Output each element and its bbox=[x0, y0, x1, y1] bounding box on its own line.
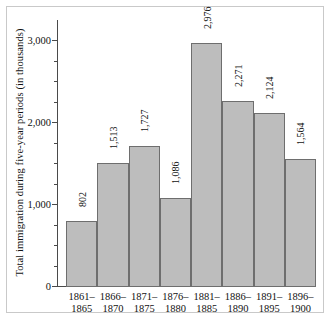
y-tick-label: 0 bbox=[46, 281, 51, 292]
x-axis-label-line: 1895 bbox=[254, 303, 285, 315]
y-tick-minor bbox=[54, 266, 58, 267]
x-axis-labels: 1861–18651866–18701871–18751876–18801881… bbox=[66, 291, 316, 321]
x-axis-label-line: 1890 bbox=[222, 303, 253, 315]
y-tick-minor bbox=[54, 184, 58, 185]
y-tick-label: 1,000 bbox=[27, 199, 51, 210]
y-tick-minor bbox=[54, 163, 58, 164]
x-axis-label: 1876–1880 bbox=[160, 291, 191, 315]
x-axis-label: 1896–1900 bbox=[285, 291, 316, 315]
bar[interactable] bbox=[66, 221, 97, 287]
x-axis-label-line: 1885 bbox=[191, 303, 222, 315]
x-axis-label-line: 1876– bbox=[160, 291, 191, 303]
bar-slot: 2,271 bbox=[222, 20, 253, 287]
x-axis-label: 1891–1895 bbox=[254, 291, 285, 315]
bar-value-label: 1,727 bbox=[139, 109, 150, 132]
bar[interactable] bbox=[191, 43, 222, 287]
y-tick-minor bbox=[54, 143, 58, 144]
y-tick-major bbox=[52, 122, 58, 123]
bar-slot: 1,513 bbox=[97, 20, 128, 287]
x-axis-label: 1861–1865 bbox=[66, 291, 97, 315]
bar-slot: 802 bbox=[66, 20, 97, 287]
x-axis-label-line: 1891– bbox=[254, 291, 285, 303]
bar-slot: 1,086 bbox=[160, 20, 191, 287]
x-axis-label-line: 1900 bbox=[285, 303, 316, 315]
x-axis-label: 1871–1875 bbox=[129, 291, 160, 315]
x-axis-label: 1886–1890 bbox=[222, 291, 253, 315]
bar-slot: 2,124 bbox=[254, 20, 285, 287]
y-tick-label: 3,000 bbox=[27, 35, 51, 46]
bar-value-label: 2,976 bbox=[201, 7, 212, 30]
x-axis-label-line: 1866– bbox=[97, 291, 128, 303]
bar-value-label: 2,271 bbox=[232, 65, 243, 88]
x-axis-label-line: 1861– bbox=[66, 291, 97, 303]
bar[interactable] bbox=[129, 146, 160, 287]
bar-slot: 1,727 bbox=[129, 20, 160, 287]
bar-value-label: 1,564 bbox=[295, 123, 306, 146]
x-axis-label-line: 1871– bbox=[129, 291, 160, 303]
x-axis-label-line: 1880 bbox=[160, 303, 191, 315]
y-tick-major bbox=[52, 204, 58, 205]
bar[interactable] bbox=[222, 101, 253, 287]
bar[interactable] bbox=[254, 113, 285, 287]
x-axis-label-line: 1875 bbox=[129, 303, 160, 315]
y-tick-major bbox=[52, 286, 58, 287]
bar-slot: 2,976 bbox=[191, 20, 222, 287]
y-tick-minor bbox=[54, 61, 58, 62]
bar-value-label: 1,086 bbox=[170, 162, 181, 185]
x-axis-label-line: 1896– bbox=[285, 291, 316, 303]
bar-value-label: 2,124 bbox=[264, 77, 275, 100]
plot-area: 01,0002,0003,000 8021,5131,7271,0862,976… bbox=[57, 20, 316, 287]
y-tick-minor bbox=[54, 102, 58, 103]
bar-value-label: 1,513 bbox=[107, 127, 118, 150]
x-axis-label: 1866–1870 bbox=[97, 291, 128, 315]
y-axis-title: Total immigration during five-year perio… bbox=[14, 28, 25, 278]
x-axis-label-line: 1870 bbox=[97, 303, 128, 315]
y-tick-minor bbox=[54, 81, 58, 82]
bar-value-label: 802 bbox=[76, 192, 87, 207]
x-axis-label-line: 1865 bbox=[66, 303, 97, 315]
x-axis-label-line: 1881– bbox=[191, 291, 222, 303]
y-tick-label: 2,000 bbox=[27, 117, 51, 128]
bar[interactable] bbox=[97, 163, 128, 287]
y-tick-minor bbox=[54, 40, 58, 41]
x-axis-label-line: 1886– bbox=[222, 291, 253, 303]
bar[interactable] bbox=[160, 198, 191, 287]
immigration-bar-chart-figure: Total immigration during five-year perio… bbox=[0, 0, 335, 329]
bar-slot: 1,564 bbox=[285, 20, 316, 287]
bar-series: 8021,5131,7271,0862,9762,2712,1241,564 bbox=[66, 20, 316, 287]
y-tick-minor bbox=[54, 245, 58, 246]
y-tick-minor bbox=[54, 225, 58, 226]
bar[interactable] bbox=[285, 159, 316, 287]
x-axis-label: 1881–1885 bbox=[191, 291, 222, 315]
